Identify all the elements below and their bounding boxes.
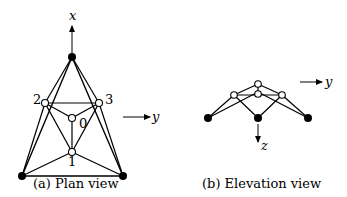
node-top [255,81,262,88]
node-2 [42,100,49,107]
support-node-right [304,114,312,122]
y-axis-label: y [151,109,160,124]
node-3-label: 3 [105,92,113,107]
support-node-right [119,172,127,180]
y-axis-label: y [324,74,333,89]
z-axis-label: z [260,138,268,153]
node-1-label: 1 [68,154,76,169]
node-right [279,92,286,99]
elevation-view-panel: y z (b) Elevation view [202,74,333,191]
node-left [231,92,238,99]
support-node-left [18,172,26,180]
support-node-left [204,114,212,122]
node-0 [69,115,76,122]
support-node-center [254,114,262,122]
node-2-label: 2 [33,92,41,107]
node-0-label: 0 [79,116,87,131]
node-3 [96,100,103,107]
plan-view-caption: (a) Plan view [33,176,119,191]
plan-view-panel: x y 2 3 0 1 (a) Plan view [18,8,160,191]
figure-canvas: x y 2 3 0 1 (a) Plan view [0,0,347,197]
support-node-top [68,53,76,61]
x-axis-label: x [69,8,77,23]
node-middle [255,91,262,98]
elevation-view-caption: (b) Elevation view [202,176,321,191]
